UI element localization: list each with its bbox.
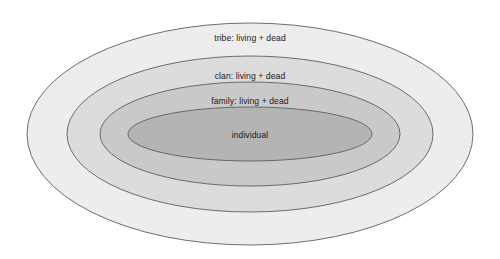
label-tribe: tribe: living + dead (214, 33, 286, 43)
diagram-canvas: tribe: living + dead clan: living + dead… (0, 0, 500, 259)
nested-ellipse-diagram: tribe: living + dead clan: living + dead… (0, 0, 500, 259)
label-family: family: living + dead (211, 96, 289, 106)
label-clan: clan: living + dead (215, 71, 286, 81)
label-individual: individual (232, 130, 269, 140)
